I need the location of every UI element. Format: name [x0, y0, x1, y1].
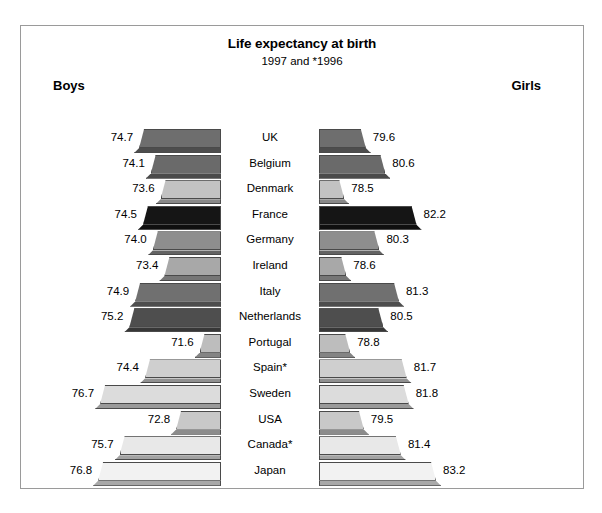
value-label-girls: 83.2 [443, 464, 465, 476]
value-label-boys: 73.4 [136, 259, 158, 271]
value-label-boys: 74.4 [117, 361, 139, 373]
bar-boys-ireland [164, 257, 221, 276]
value-label-boys: 74.0 [124, 233, 146, 245]
category-label: UK [221, 131, 319, 143]
bar-face [139, 129, 221, 148]
value-label-boys: 72.8 [148, 413, 170, 425]
value-label-girls: 78.6 [353, 259, 375, 271]
chart-row: 74.7UK79.6 [21, 129, 585, 155]
bar-face [319, 257, 346, 276]
chart-row: 75.7Canada*81.4 [21, 436, 585, 462]
bar-shadow [319, 250, 384, 255]
bar-shadow [319, 225, 422, 230]
bar-girls-germany [319, 231, 379, 250]
bar-girls-sweden [319, 385, 409, 404]
bar-girls-spain [319, 359, 407, 378]
chart-subtitle: 1997 and *1996 [21, 55, 583, 67]
bar-boys-usa [176, 411, 221, 430]
bar-girls-canada [319, 436, 401, 455]
bar-face [100, 385, 221, 404]
bar-face [120, 436, 221, 455]
bar-face [135, 283, 221, 302]
boys-series-heading: Boys [53, 78, 85, 93]
bar-shadow [138, 225, 221, 230]
bar-girls-belgium [319, 155, 385, 174]
category-label: Germany [221, 233, 319, 245]
bar-face [153, 231, 221, 250]
category-label: Canada* [221, 438, 319, 450]
value-label-boys: 74.1 [122, 157, 144, 169]
value-label-girls: 79.6 [373, 131, 395, 143]
bar-shadow [134, 148, 221, 153]
bar-shadow [319, 353, 355, 358]
bar-face [176, 411, 221, 430]
value-label-boys: 74.5 [115, 208, 137, 220]
bar-shadow [159, 276, 221, 281]
category-label: Denmark [221, 182, 319, 194]
bar-face [319, 206, 417, 225]
girls-series-heading: Girls [511, 78, 541, 93]
category-label: Italy [221, 285, 319, 297]
value-label-girls: 80.6 [392, 157, 414, 169]
bar-boys-canada [120, 436, 221, 455]
bar-girls-netherlands [319, 308, 383, 327]
bar-boys-sweden [100, 385, 221, 404]
chart-row: 75.2Netherlands80.5 [21, 308, 585, 334]
chart-row: 76.7Sweden81.8 [21, 385, 585, 411]
bar-shadow [319, 327, 388, 332]
bar-boys-netherlands [129, 308, 221, 327]
bar-boys-japan [98, 462, 221, 481]
bar-face [145, 359, 221, 378]
bar-boys-france [143, 206, 221, 225]
bar-face [319, 462, 436, 481]
bar-boys-denmark [161, 180, 221, 199]
category-label: France [221, 208, 319, 220]
chart-title: Life expectancy at birth [21, 36, 583, 51]
bar-shadow [195, 353, 221, 358]
chart-row: 71.6Portugal78.8 [21, 334, 585, 360]
bar-shadow [148, 250, 221, 255]
value-label-girls: 80.5 [390, 310, 412, 322]
bar-face [319, 231, 379, 250]
value-label-boys: 76.8 [70, 464, 92, 476]
bar-face [164, 257, 221, 276]
bar-shadow [319, 302, 404, 307]
bar-face [98, 462, 221, 481]
chart-row: 72.8USA79.5 [21, 411, 585, 437]
bar-shadow [319, 481, 441, 486]
plot-area: 74.7UK79.674.1Belgium80.673.6Denmark78.5… [21, 129, 585, 489]
bar-boys-spain [145, 359, 221, 378]
bar-face [319, 359, 407, 378]
bar-girls-france [319, 206, 417, 225]
bar-boys-germany [153, 231, 221, 250]
bar-boys-belgium [151, 155, 221, 174]
bar-face [319, 283, 399, 302]
bar-shadow [156, 199, 221, 204]
bar-shadow [319, 199, 349, 204]
bar-shadow [319, 455, 406, 460]
bar-boys-uk [139, 129, 221, 148]
chart-row: 74.1Belgium80.6 [21, 155, 585, 181]
bar-shadow [319, 430, 369, 435]
chart-row: 76.8Japan83.2 [21, 462, 585, 488]
bar-face [319, 436, 401, 455]
chart-row: 73.6Denmark78.5 [21, 180, 585, 206]
chart-row: 73.4Ireland78.6 [21, 257, 585, 283]
bar-girls-ireland [319, 257, 346, 276]
value-label-boys: 74.9 [107, 285, 129, 297]
chart-row: 74.4Spain*81.7 [21, 359, 585, 385]
bar-face [200, 334, 221, 353]
bar-shadow [319, 174, 390, 179]
category-label: Sweden [221, 387, 319, 399]
bar-shadow [95, 404, 221, 409]
value-label-girls: 81.8 [416, 387, 438, 399]
bar-shadow [171, 430, 221, 435]
value-label-girls: 79.5 [371, 413, 393, 425]
bar-face [161, 180, 221, 199]
value-label-girls: 78.8 [357, 336, 379, 348]
bar-face [319, 180, 344, 199]
category-label: Japan [221, 464, 319, 476]
bar-face [319, 308, 383, 327]
bar-shadow [146, 174, 221, 179]
value-label-girls: 81.7 [414, 361, 436, 373]
